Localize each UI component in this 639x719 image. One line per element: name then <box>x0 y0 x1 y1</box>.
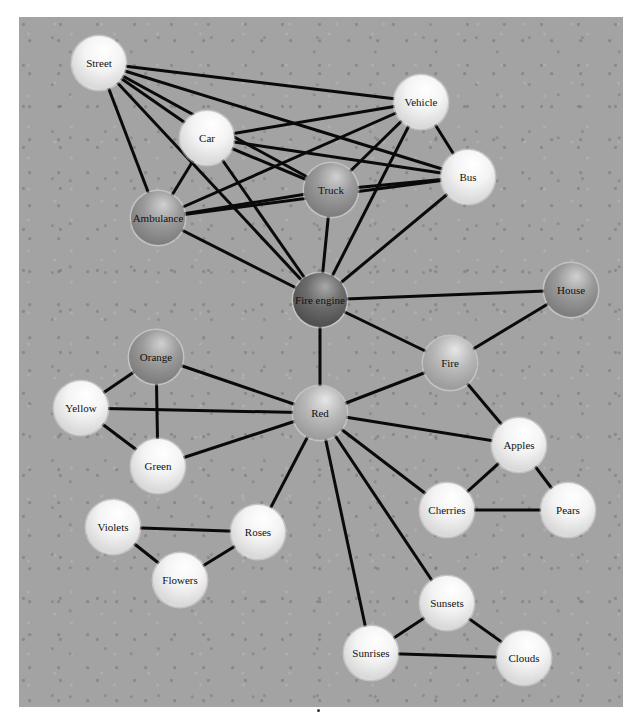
node-label: Bus <box>459 171 476 183</box>
node-yellow: Yellow <box>53 380 110 437</box>
edge-fire-engine-house <box>320 290 571 300</box>
node-orange: Orange <box>128 329 185 386</box>
node-vehicle: Vehicle <box>393 74 450 131</box>
node-truck: Truck <box>303 162 360 219</box>
node-label: Roses <box>245 526 271 538</box>
node-flowers: Flowers <box>152 552 209 609</box>
node-pears: Pears <box>540 482 597 539</box>
node-label: Fire <box>441 357 459 369</box>
node-label: Violets <box>97 521 128 533</box>
node-label: Truck <box>318 184 344 196</box>
node-cherries: Cherries <box>419 482 476 539</box>
node-label: Orange <box>140 351 172 363</box>
node-fire-engine: Fire engine <box>292 272 349 329</box>
node-label: Flowers <box>162 574 197 586</box>
node-ambulance: Ambulance <box>130 190 187 247</box>
node-label: Apples <box>503 439 534 451</box>
node-label: Street <box>86 57 112 69</box>
node-label: Sunsets <box>430 597 464 609</box>
node-fire: Fire <box>422 335 479 392</box>
node-label: Sunrises <box>352 647 389 659</box>
node-label: Car <box>199 132 215 144</box>
node-sunrises: Sunrises <box>343 625 400 682</box>
node-label: Pears <box>556 504 580 516</box>
node-label: Green <box>145 460 172 472</box>
node-bus: Bus <box>440 149 497 206</box>
node-label: Clouds <box>508 652 539 664</box>
node-label: Ambulance <box>133 212 184 224</box>
node-red: Red <box>292 385 349 442</box>
node-label: Cherries <box>428 504 465 516</box>
node-roses: Roses <box>230 504 287 561</box>
node-apples: Apples <box>491 417 548 474</box>
node-label: Fire engine <box>295 294 345 306</box>
semantic-network-diagram: StreetVehicleCarBusTruckAmbulanceFire en… <box>0 0 639 719</box>
node-street: Street <box>71 35 128 92</box>
node-sunsets: Sunsets <box>419 575 476 632</box>
node-car: Car <box>179 110 236 167</box>
node-violets: Violets <box>85 499 142 556</box>
node-label: Vehicle <box>405 96 438 108</box>
node-label: House <box>557 284 585 296</box>
edge-yellow-red <box>81 408 320 413</box>
node-clouds: Clouds <box>496 630 553 687</box>
node-house: House <box>543 262 600 319</box>
edge-red-apples <box>320 413 519 445</box>
node-label: Red <box>311 407 329 419</box>
node-label: Yellow <box>65 402 96 414</box>
node-green: Green <box>130 438 187 495</box>
